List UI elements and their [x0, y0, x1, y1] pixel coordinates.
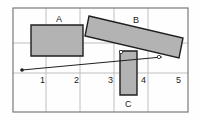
diagram-stage: ABC12345: [0, 0, 200, 120]
axis-number-2: 2: [74, 76, 79, 85]
ray-intersection-marker-2: [157, 55, 160, 58]
shape-label-c: C: [125, 100, 132, 109]
axis-number-3: 3: [108, 76, 113, 85]
axis-number-5: 5: [176, 76, 181, 85]
ray-line: [22, 57, 162, 70]
diagram-canvas: [0, 0, 200, 120]
axis-number-4: 4: [141, 76, 146, 85]
ray-intersection-marker-1: [119, 50, 122, 53]
shape-label-a: A: [56, 15, 62, 24]
shape-label-b: B: [133, 16, 139, 25]
rectangle-c[interactable]: [120, 51, 137, 95]
ray-origin-dot: [20, 68, 24, 72]
rectangle-a[interactable]: [31, 25, 83, 56]
axis-number-1: 1: [40, 76, 45, 85]
